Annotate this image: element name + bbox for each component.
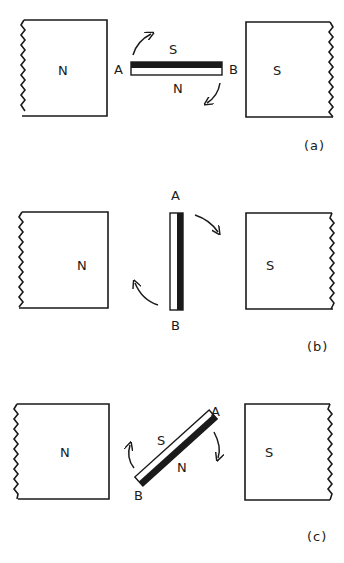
bar-end-a-label: A xyxy=(114,62,123,77)
bar-face-top-label: S xyxy=(157,433,165,448)
rotation-arrow-icon xyxy=(135,283,158,305)
armature-bar xyxy=(135,410,217,486)
rotation-arrow-icon xyxy=(133,34,151,55)
right-pole-piece: S xyxy=(246,22,333,117)
panel-b: N S A B (b) xyxy=(19,188,334,354)
right-pole-piece: S xyxy=(246,213,334,309)
pole-label-s: S xyxy=(273,63,281,78)
pole-label-s: S xyxy=(266,258,274,273)
panel-a: N S A B S N (a) xyxy=(21,20,333,153)
pole-label-s: S xyxy=(265,445,273,460)
bar-end-b-label: B xyxy=(134,488,143,503)
panel-caption: (b) xyxy=(307,339,328,354)
bar-end-b-label: B xyxy=(171,318,180,333)
diagram-canvas: N S A B S N (a) N S xyxy=(0,0,344,563)
bar-end-b-label: B xyxy=(229,62,238,77)
armature-bar xyxy=(131,62,222,75)
pole-label-n: N xyxy=(58,63,68,78)
pole-label-n: N xyxy=(77,258,87,273)
right-pole-piece: S xyxy=(245,404,332,500)
left-pole-piece: N xyxy=(19,212,108,308)
bar-face-bottom-label: N xyxy=(177,460,187,475)
bar-face-bottom-label: N xyxy=(173,81,183,96)
bar-end-a-label: A xyxy=(211,404,220,419)
left-pole-piece: N xyxy=(21,20,107,116)
rotation-arrow-icon xyxy=(195,215,218,232)
left-pole-piece: N xyxy=(14,404,109,499)
rotation-arrow-icon xyxy=(214,432,219,458)
panel-caption: (a) xyxy=(304,138,325,153)
pole-label-n: N xyxy=(60,445,70,460)
bar-face-top-label: S xyxy=(169,42,177,57)
panel-c: N S A B S N (c) xyxy=(14,404,332,544)
panel-caption: (c) xyxy=(307,529,327,544)
rotation-arrow-icon xyxy=(207,83,220,103)
rotation-arrow-icon xyxy=(129,445,134,468)
armature-bar xyxy=(170,213,183,310)
bar-end-a-label: A xyxy=(171,188,180,203)
